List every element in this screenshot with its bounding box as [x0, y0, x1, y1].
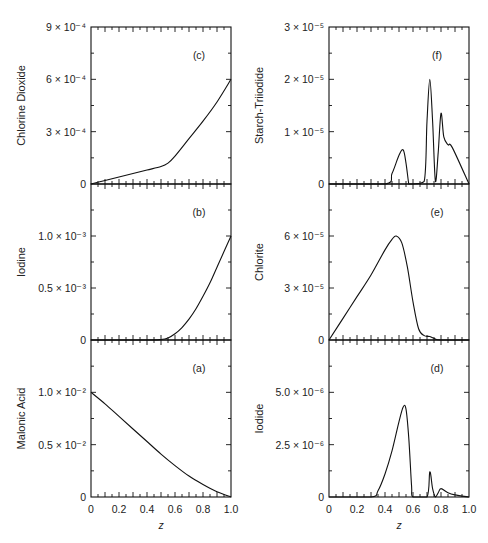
- data-curve: [329, 405, 469, 497]
- y-tick-label: 9 × 10⁻⁴: [46, 21, 86, 33]
- axes-frame: [329, 184, 469, 340]
- x-axis-label: z: [395, 519, 402, 531]
- panel-label: (e): [431, 206, 444, 218]
- x-axis-label: z: [157, 519, 164, 531]
- x-tick-label: 0.2: [350, 503, 365, 515]
- axes-frame: [91, 184, 231, 340]
- x-tick-label: 0: [88, 503, 94, 515]
- y-tick-label: 0: [318, 178, 324, 190]
- panel-d: 02.5 × 10⁻⁶5.0 × 10⁻⁶Iodide(d)00.20.40.6…: [253, 340, 476, 531]
- y-tick-label: 0.5 × 10⁻²: [38, 439, 86, 451]
- data-curve: [91, 79, 231, 184]
- y-tick-label: 0: [80, 334, 86, 346]
- y-tick-label: 0: [318, 334, 324, 346]
- axes-frame: [329, 340, 469, 497]
- x-tick-label: 0.6: [168, 503, 183, 515]
- y-tick-label: 0: [80, 178, 86, 190]
- y-tick-label: 5.0 × 10⁻⁶: [275, 386, 324, 398]
- y-axis-label: Iodine: [15, 247, 27, 277]
- y-axis-label: Iodide: [253, 404, 265, 434]
- x-tick-label: 0.2: [112, 503, 127, 515]
- y-tick-label: 3 × 10⁻⁵: [284, 21, 324, 33]
- panel-label: (a): [193, 362, 206, 374]
- y-tick-label: 6 × 10⁻⁴: [46, 73, 86, 85]
- x-tick-label: 1.0: [224, 503, 239, 515]
- panel-label: (f): [432, 49, 442, 61]
- x-tick-label: 1.0: [462, 503, 477, 515]
- data-curve: [329, 79, 469, 184]
- x-tick-label: 0.6: [406, 503, 421, 515]
- y-tick-label: 6 × 10⁻⁵: [284, 230, 324, 242]
- panel-label: (b): [193, 206, 206, 218]
- panel-label: (d): [431, 362, 444, 374]
- y-axis-label: Chlorite: [253, 243, 265, 281]
- panel-a: 00.5 × 10⁻²1.0 × 10⁻²Malonic Acid(a)00.2…: [15, 340, 238, 531]
- panel-b: 00.5 × 10⁻³1.0 × 10⁻³Iodine(b): [15, 184, 231, 346]
- y-axis-label: Malonic Acid: [15, 388, 27, 450]
- y-tick-label: 1.0 × 10⁻²: [38, 386, 86, 398]
- y-axis-label: Chlorine Dioxide: [15, 65, 27, 146]
- panel-label: (c): [193, 49, 205, 61]
- panel-e: 03 × 10⁻⁵6 × 10⁻⁵Chlorite(e): [253, 184, 469, 346]
- panel-c: 03 × 10⁻⁴6 × 10⁻⁴9 × 10⁻⁴Chlorine Dioxid…: [15, 21, 231, 190]
- y-tick-label: 2.5 × 10⁻⁶: [275, 439, 324, 451]
- data-curve: [91, 392, 231, 497]
- axes-frame: [91, 340, 231, 497]
- data-curve: [91, 236, 231, 340]
- y-axis-label: Starch-Triiodide: [253, 67, 265, 144]
- data-curve: [329, 236, 469, 340]
- y-tick-label: 1.0 × 10⁻³: [38, 230, 86, 242]
- y-tick-label: 3 × 10⁻⁴: [46, 126, 86, 138]
- y-tick-label: 3 × 10⁻⁵: [284, 282, 324, 294]
- x-tick-label: 0.8: [434, 503, 449, 515]
- x-tick-label: 0.4: [140, 503, 155, 515]
- x-tick-label: 0: [326, 503, 332, 515]
- x-tick-label: 0.4: [378, 503, 393, 515]
- x-tick-label: 0.8: [196, 503, 211, 515]
- y-tick-label: 0.5 × 10⁻³: [38, 282, 86, 294]
- y-tick-label: 0: [318, 491, 324, 503]
- panel-f: 01 × 10⁻⁵2 × 10⁻⁵3 × 10⁻⁵Starch-Triiodid…: [253, 21, 469, 190]
- y-tick-label: 1 × 10⁻⁵: [284, 126, 324, 138]
- axes-frame: [329, 27, 469, 184]
- y-tick-label: 0: [80, 491, 86, 503]
- figure: 03 × 10⁻⁴6 × 10⁻⁴9 × 10⁻⁴Chlorine Dioxid…: [0, 0, 488, 543]
- axes-frame: [91, 27, 231, 184]
- y-tick-label: 2 × 10⁻⁵: [284, 73, 324, 85]
